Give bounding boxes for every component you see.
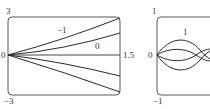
left-xtick-right: 1.5 — [123, 50, 135, 60]
right-ytick-bottom: −1 — [153, 96, 163, 106]
left-ytick-bottom: −3 — [4, 96, 14, 106]
left-annotation-mid: 0 — [95, 41, 100, 51]
left-curve-b — [8, 33, 120, 55]
right-origin-label: 0 — [148, 50, 153, 60]
left-plot: 3 −3 0 1.5 −1 0 — [1, 6, 135, 106]
left-origin-label: 0 — [1, 50, 6, 60]
left-annotation-top: −1 — [57, 25, 67, 35]
right-annotation-top: 1 — [183, 27, 188, 37]
right-plot: 1 −1 0 1 — [148, 6, 210, 106]
left-curve-e — [8, 55, 120, 92]
left-curve-a — [8, 18, 120, 55]
left-ytick-top: 3 — [6, 6, 11, 16]
figure: 3 −3 0 1.5 −1 0 1 −1 0 1 — [0, 0, 210, 109]
right-ytick-top: 1 — [152, 6, 157, 16]
